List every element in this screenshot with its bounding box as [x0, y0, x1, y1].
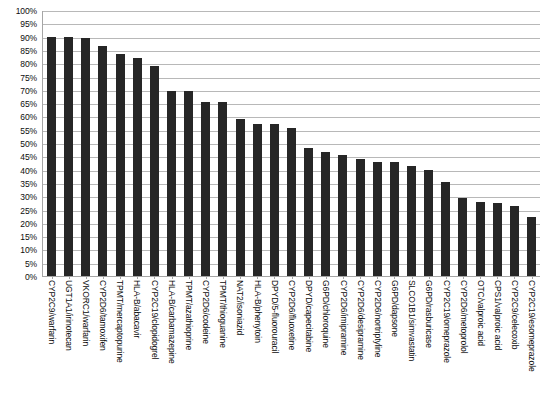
- bar-chart: 100%95%90%85%80%75%70%65%60%55%50%45%40%…: [0, 0, 554, 414]
- x-axis-label-slot: CPS1/valproic acid: [488, 280, 505, 414]
- y-axis: 100%95%90%85%80%75%70%65%60%55%50%45%40%…: [0, 0, 40, 414]
- x-axis-tick-mark: [497, 276, 498, 279]
- bar[interactable]: [218, 102, 227, 276]
- bar-slot[interactable]: [300, 11, 317, 276]
- bar[interactable]: [47, 37, 56, 276]
- bar[interactable]: [81, 38, 90, 276]
- x-axis-tick-mark: [446, 276, 447, 279]
- x-axis-label-slot: DPYD/5-fluorouracil: [265, 280, 282, 414]
- x-axis-tick-label: HLA-B/carbamazepine: [167, 280, 176, 364]
- x-axis-tick-mark: [103, 276, 104, 279]
- bar[interactable]: [390, 162, 399, 276]
- x-axis-tick-label: CYP2D6/tamoxifen: [98, 280, 107, 351]
- bar-slot[interactable]: [129, 11, 146, 276]
- bar-slot[interactable]: [180, 11, 197, 276]
- bar[interactable]: [270, 124, 279, 276]
- bar-slot[interactable]: [77, 11, 94, 276]
- bar-slot[interactable]: [489, 11, 506, 276]
- bar-slot[interactable]: [386, 11, 403, 276]
- bar[interactable]: [236, 119, 245, 276]
- x-axis-tick-label: G6PD/chloroquine: [321, 280, 330, 348]
- bar[interactable]: [441, 182, 450, 276]
- bar[interactable]: [407, 166, 416, 276]
- bar[interactable]: [201, 102, 210, 276]
- bar[interactable]: [493, 203, 502, 276]
- bar[interactable]: [167, 91, 176, 276]
- bar-slot[interactable]: [437, 11, 454, 276]
- bar-slot[interactable]: [472, 11, 489, 276]
- x-axis-tick-mark: [514, 276, 515, 279]
- bar[interactable]: [253, 124, 262, 276]
- bar[interactable]: [458, 198, 467, 276]
- bar[interactable]: [98, 46, 107, 276]
- x-axis-tick-label: CYP2D6/imipramine: [339, 280, 348, 355]
- y-axis-tick-label: 50%: [20, 140, 37, 149]
- x-axis-tick-label: OTC/valproic acid: [476, 280, 485, 346]
- bar-slot[interactable]: [420, 11, 437, 276]
- y-axis-tick-label: 15%: [20, 233, 37, 242]
- bar[interactable]: [373, 162, 382, 276]
- plot-area: [42, 11, 540, 277]
- x-axis-tick-mark: [309, 276, 310, 279]
- bar[interactable]: [133, 58, 142, 276]
- y-axis-tick-label: 20%: [20, 220, 37, 229]
- x-axis-tick-mark: [69, 276, 70, 279]
- bar-slot[interactable]: [232, 11, 249, 276]
- x-axis-tick-label: TPMT/thioguanine: [218, 280, 227, 348]
- bar[interactable]: [321, 152, 330, 276]
- x-axis-label-slot: G6PD/dapsone: [385, 280, 402, 414]
- y-axis-tick-label: 85%: [20, 47, 37, 56]
- bar-slot[interactable]: [283, 11, 300, 276]
- x-axis-label-slot: OTC/valproic acid: [471, 280, 488, 414]
- bar-slot[interactable]: [369, 11, 386, 276]
- bar-slot[interactable]: [403, 11, 420, 276]
- x-axis-label-slot: NAT2/isoniazid: [231, 280, 248, 414]
- x-axis-tick-label: CPS1/valproic acid: [493, 280, 502, 350]
- bar-slot[interactable]: [266, 11, 283, 276]
- bar-slot[interactable]: [454, 11, 471, 276]
- bar[interactable]: [338, 155, 347, 276]
- bar-slot[interactable]: [112, 11, 129, 276]
- bar[interactable]: [304, 148, 313, 276]
- x-axis-tick-label: CYP2C9/warfarin: [47, 280, 56, 344]
- x-axis-label-slot: CYP2C19/omeprazole: [437, 280, 454, 414]
- bar-slot[interactable]: [249, 11, 266, 276]
- x-axis-label-slot: TPMT/mercaptopurine: [111, 280, 128, 414]
- bar[interactable]: [510, 206, 519, 276]
- bar-slot[interactable]: [60, 11, 77, 276]
- x-axis-label-slot: CYP2C9/celecoxib: [506, 280, 523, 414]
- bar-slot[interactable]: [146, 11, 163, 276]
- bar[interactable]: [476, 202, 485, 276]
- bar-slot[interactable]: [43, 11, 60, 276]
- bar-slot[interactable]: [163, 11, 180, 276]
- bar-slot[interactable]: [94, 11, 111, 276]
- bar[interactable]: [424, 170, 433, 276]
- x-axis-label-slot: SLCO1B1/simvastatin: [403, 280, 420, 414]
- x-axis-tick-label: VKORC1/warfarin: [81, 280, 90, 346]
- x-axis-tick-mark: [206, 276, 207, 279]
- x-axis-label-slot: CYP2D6/tamoxifen: [94, 280, 111, 414]
- bar[interactable]: [527, 217, 536, 276]
- bar-slot[interactable]: [352, 11, 369, 276]
- bar[interactable]: [287, 128, 296, 276]
- x-axis-tick-mark: [137, 276, 138, 279]
- bar[interactable]: [116, 54, 125, 276]
- y-axis-tick-label: 40%: [20, 166, 37, 175]
- bar[interactable]: [184, 91, 193, 276]
- bar[interactable]: [64, 37, 73, 276]
- y-axis-tick-label: 55%: [20, 126, 37, 135]
- y-axis-tick-label: 60%: [20, 113, 37, 122]
- bar[interactable]: [150, 66, 159, 276]
- x-axis-tick-label: HLA-B/abacavir: [132, 280, 141, 338]
- x-axis-label-slot: DPYD/capecitabine: [300, 280, 317, 414]
- bar[interactable]: [356, 159, 365, 276]
- x-axis-label-slot: CYP2D6/nortriptyline: [368, 280, 385, 414]
- bar-slot[interactable]: [506, 11, 523, 276]
- bar-slot[interactable]: [197, 11, 214, 276]
- y-axis-tick-label: 100%: [16, 7, 37, 16]
- bar-slot[interactable]: [523, 11, 540, 276]
- bar-slot[interactable]: [214, 11, 231, 276]
- bar-slot[interactable]: [334, 11, 351, 276]
- x-axis-tick-label: CYP2C19/esomeprazole: [527, 280, 536, 372]
- bar-slot[interactable]: [317, 11, 334, 276]
